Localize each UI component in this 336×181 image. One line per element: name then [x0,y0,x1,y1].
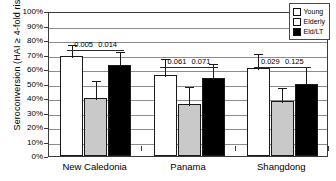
x-axis-category-label: New Caledonia [48,161,141,172]
y-axis-tick-label: 40% [0,95,43,103]
bar-eldlt [202,78,225,156]
y-axis-tick-label: 20% [0,124,43,132]
bar-young [154,75,177,156]
error-bar-line [189,87,190,106]
p-value-annotation: 0.125 [278,58,311,68]
y-axis-tick-label: 90% [0,23,43,31]
x-axis-category-label: Shangdong [235,161,328,172]
gridline [49,28,327,29]
plot-area: 0.0050.0140.0610.0710.0290.125 [48,12,328,157]
bar-elderly [84,98,107,156]
legend-label-eldlt: Eld/LT [304,28,324,35]
error-bar-cap [278,88,287,89]
error-bar-line [282,88,283,103]
legend-swatch-eldlt-icon [293,28,301,36]
error-bar-cap [92,81,101,82]
legend-swatch-elderly-icon [293,18,301,26]
error-bar-cap [185,87,194,88]
y-axis-tick-label: 0% [0,153,43,161]
bar-elderly [271,101,294,156]
y-axis-tick-label: 70% [0,52,43,60]
chart-container: Seroconversion (HAI ≥ 4-fold rise) 100%9… [0,0,336,181]
y-axis-tick-mark [44,157,48,158]
y-axis-tick-label: 50% [0,81,43,89]
error-bar-line [306,67,307,86]
y-axis-tick-label: 30% [0,110,43,118]
legend-item-elderly: Elderly [293,17,325,26]
legend: Young Elderly Eld/LT [289,3,330,40]
bar-young [60,56,83,156]
p-value-annotation: 0.014 [91,41,124,51]
x-axis-category-label: Panama [141,161,234,172]
p-value-annotation: 0.071 [184,58,217,68]
bar-eldlt [108,65,131,156]
error-bar-line [120,52,121,67]
legend-swatch-young-icon [293,8,301,16]
error-bar-cap [254,54,263,55]
error-bar-cap [116,52,125,53]
legend-item-eldlt: Eld/LT [293,27,325,36]
gridline [49,71,327,72]
error-bar-line [96,81,97,100]
bar-eldlt [295,84,318,157]
legend-label-elderly: Elderly [304,18,325,25]
legend-item-young: Young [293,7,325,16]
y-axis-tick-label: 60% [0,66,43,74]
y-axis-tick-label: 80% [0,37,43,45]
bar-young [247,68,270,156]
x-axis-tick-mark [235,146,236,151]
bar-elderly [178,104,201,156]
legend-label-young: Young [304,8,324,15]
x-axis-tick-mark [328,146,329,151]
y-axis-tick-label: 100% [0,8,43,16]
y-axis-tick-label: 10% [0,139,43,147]
x-axis-tick-mark [141,146,142,151]
